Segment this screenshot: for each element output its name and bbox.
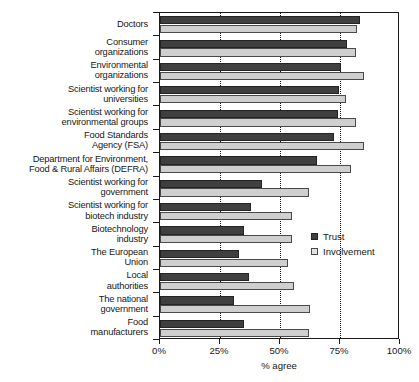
category-label: Biotechnology industry xyxy=(0,224,148,244)
bar-trust xyxy=(160,133,334,141)
bar-involvement xyxy=(160,142,364,150)
bar-involvement xyxy=(160,282,294,290)
category-label: Environmental organizations xyxy=(0,60,148,80)
x-axis-tick xyxy=(219,339,220,344)
bar-involvement xyxy=(160,329,309,337)
bar-trust xyxy=(160,180,262,188)
legend-item-involvement: Involvement xyxy=(311,246,375,257)
y-axis-tick xyxy=(153,35,160,36)
bar-involvement xyxy=(160,72,364,80)
y-axis-tick xyxy=(153,176,160,177)
category-label: Department for Environment, Food & Rural… xyxy=(0,154,148,174)
bar-trust xyxy=(160,40,347,48)
bar-involvement xyxy=(160,118,356,126)
y-axis-tick xyxy=(153,222,160,223)
y-axis-tick xyxy=(153,316,160,317)
bar-involvement xyxy=(160,235,292,243)
bar-group xyxy=(160,200,398,223)
bar-group xyxy=(160,106,398,129)
bar-trust xyxy=(160,156,317,164)
y-axis-tick xyxy=(153,292,160,293)
x-axis-tick-label: 0% xyxy=(152,345,166,356)
bar-trust xyxy=(160,250,239,258)
x-axis-tick xyxy=(159,339,160,344)
legend-label-involvement: Involvement xyxy=(323,246,375,257)
legend-swatch-involvement-icon xyxy=(311,248,318,255)
y-axis-tick xyxy=(153,129,160,130)
x-axis-tick-label: 50% xyxy=(269,345,288,356)
bar-involvement xyxy=(160,25,357,33)
bar-group xyxy=(160,83,398,106)
bar-involvement xyxy=(160,165,351,173)
chart-legend: Trust Involvement xyxy=(311,231,375,261)
y-axis-tick xyxy=(153,59,160,60)
bar-group xyxy=(160,36,398,59)
y-axis-tick xyxy=(153,82,160,83)
x-axis-tick xyxy=(279,339,280,344)
x-axis-tick xyxy=(399,339,400,344)
bar-trust xyxy=(160,226,244,234)
category-label: Scientist working for universities xyxy=(0,84,148,104)
y-axis-tick xyxy=(153,246,160,247)
y-axis-tick xyxy=(153,152,160,153)
plot-inner xyxy=(160,13,398,338)
bar-trust xyxy=(160,273,249,281)
y-axis-tick xyxy=(153,12,160,13)
bar-involvement xyxy=(160,48,356,56)
bar-involvement xyxy=(160,212,292,220)
x-axis-tick-label: 25% xyxy=(209,345,228,356)
category-label: Food manufacturers xyxy=(0,317,148,337)
bar-group xyxy=(160,177,398,200)
bar-group xyxy=(160,130,398,153)
bar-group xyxy=(160,293,398,316)
category-label: Scientist working for environmental grou… xyxy=(0,107,148,127)
x-axis-title: % agree xyxy=(261,360,297,371)
bar-trust xyxy=(160,296,234,304)
legend-label-trust: Trust xyxy=(323,231,345,242)
bar-trust xyxy=(160,320,244,328)
x-axis-tick-label: 75% xyxy=(329,345,348,356)
bar-group xyxy=(160,153,398,176)
bar-group xyxy=(160,13,398,36)
category-label: Doctors xyxy=(0,19,148,29)
bar-trust xyxy=(160,86,339,94)
category-label: Scientist working for government xyxy=(0,177,148,197)
category-label: Scientist working for biotech industry xyxy=(0,200,148,220)
x-axis-tick xyxy=(339,339,340,344)
bar-group xyxy=(160,60,398,83)
category-axis-labels: DoctorsConsumer organizationsEnvironment… xyxy=(0,12,152,339)
category-label: Local authorities xyxy=(0,270,148,290)
bar-involvement xyxy=(160,95,346,103)
category-label: The national government xyxy=(0,294,148,314)
y-axis-tick xyxy=(153,199,160,200)
bar-group xyxy=(160,317,398,340)
bar-involvement xyxy=(160,259,288,267)
category-label: Consumer organizations xyxy=(0,37,148,57)
category-label: Food Standards Agency (FSA) xyxy=(0,130,148,150)
bar-trust xyxy=(160,110,338,118)
y-axis-tick xyxy=(153,105,160,106)
bar-trust xyxy=(160,16,360,24)
bar-chart: DoctorsConsumer organizationsEnvironment… xyxy=(0,0,419,382)
bar-involvement xyxy=(160,305,310,313)
legend-swatch-trust-icon xyxy=(311,233,318,240)
bar-trust xyxy=(160,203,251,211)
bar-group xyxy=(160,270,398,293)
y-axis-tick xyxy=(153,269,160,270)
bar-trust xyxy=(160,63,341,71)
bar-involvement xyxy=(160,188,309,196)
plot-area xyxy=(159,12,399,339)
legend-item-trust: Trust xyxy=(311,231,375,242)
x-axis-tick-label: 100% xyxy=(387,345,412,356)
category-label: The European Union xyxy=(0,247,148,267)
